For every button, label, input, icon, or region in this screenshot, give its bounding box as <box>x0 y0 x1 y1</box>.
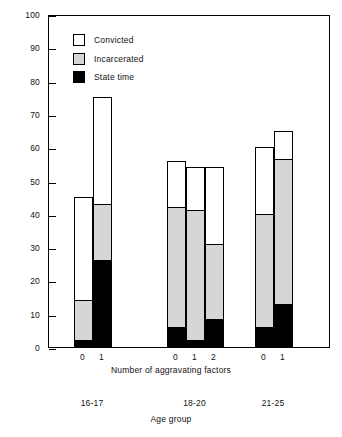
legend-item-state-time: State time <box>73 71 144 83</box>
y-tick-30 <box>49 249 56 250</box>
y-tick-label-100: 100 <box>6 11 40 20</box>
y-tick-20 <box>49 282 56 283</box>
bar-21-25-1 <box>274 131 293 347</box>
legend-item-incarcerated: Incarcerated <box>73 53 144 65</box>
y-tick-80 <box>49 83 56 84</box>
bar-18-20-0 <box>167 161 186 347</box>
y-tick-label-60: 60 <box>6 144 40 153</box>
group-axis-title: Age group <box>0 414 342 424</box>
bar-segment-incarcerated <box>167 207 186 347</box>
x-tick-label-16-17-0: 0 <box>73 352 93 362</box>
chart-figure: Percent of arrests 010203040506070809010… <box>0 0 342 437</box>
y-tick-label-30: 30 <box>6 244 40 253</box>
x-tick-label-21-25-1: 1 <box>273 352 293 362</box>
bar-segment-state-time <box>167 327 186 347</box>
y-tick-label-20: 20 <box>6 277 40 286</box>
x-tick-label-21-25-0: 0 <box>254 352 274 362</box>
x-tick-label-16-17-1: 1 <box>92 352 112 362</box>
x-tick-label-18-20-0: 0 <box>166 352 186 362</box>
y-tick-40 <box>49 216 56 217</box>
y-tick-0 <box>49 349 56 350</box>
bar-segment-state-time <box>74 340 93 347</box>
bar-16-17-0 <box>74 197 93 347</box>
legend-item-convicted: Convicted <box>73 34 144 46</box>
x-tick-label-18-20-1: 1 <box>185 352 205 362</box>
plot-area: Convicted Incarcerated State time <box>48 15 330 348</box>
bar-18-20-2 <box>205 167 224 347</box>
x-tick-label-18-20-2: 2 <box>204 352 224 362</box>
y-tick-70 <box>49 116 56 117</box>
chart-legend: Convicted Incarcerated State time <box>73 34 144 90</box>
legend-swatch-incarcerated <box>73 53 85 65</box>
bar-segment-incarcerated <box>186 210 205 347</box>
bar-segment-state-time <box>93 260 112 347</box>
bar-segment-state-time <box>186 340 205 347</box>
y-tick-label-40: 40 <box>6 211 40 220</box>
y-tick-label-70: 70 <box>6 111 40 120</box>
y-tick-10 <box>49 316 56 317</box>
bar-segment-state-time <box>255 327 274 347</box>
legend-label-convicted: Convicted <box>94 35 134 45</box>
bar-segment-state-time <box>205 319 224 347</box>
bar-18-20-1 <box>186 167 205 347</box>
y-tick-90 <box>49 49 56 50</box>
y-tick-100 <box>49 16 56 17</box>
y-tick-50 <box>49 183 56 184</box>
bar-16-17-1 <box>93 97 112 347</box>
y-tick-label-0: 0 <box>6 344 40 353</box>
y-tick-label-90: 90 <box>6 44 40 53</box>
y-tick-label-80: 80 <box>6 78 40 87</box>
legend-label-state-time: State time <box>94 72 134 82</box>
bar-segment-state-time <box>274 304 293 347</box>
y-tick-60 <box>49 149 56 150</box>
y-tick-label-50: 50 <box>6 178 40 187</box>
legend-swatch-convicted <box>73 34 85 46</box>
bar-21-25-0 <box>255 147 274 347</box>
group-label-16-17: 16-17 <box>62 398 122 408</box>
group-label-21-25: 21-25 <box>243 398 303 408</box>
group-label-18-20: 18-20 <box>165 398 225 408</box>
legend-swatch-state-time <box>73 71 85 83</box>
x-axis-title: Number of aggravating factors <box>0 365 342 375</box>
legend-label-incarcerated: Incarcerated <box>94 54 144 64</box>
y-tick-label-10: 10 <box>6 311 40 320</box>
